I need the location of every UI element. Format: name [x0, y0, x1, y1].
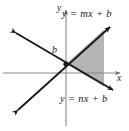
line-m-equation-label: y = mx + b — [62, 8, 112, 19]
y-intercept-label: b — [52, 44, 57, 55]
y-intercept-point — [63, 61, 68, 66]
graph-canvas — [0, 0, 129, 131]
y-axis-label: y — [57, 3, 61, 13]
x-axis-label: x — [117, 73, 121, 83]
linear-inequality-figure: y = mx + b y = nx + b y x b — [0, 0, 129, 131]
line-n-equation-label: y = nx + b — [60, 93, 108, 104]
